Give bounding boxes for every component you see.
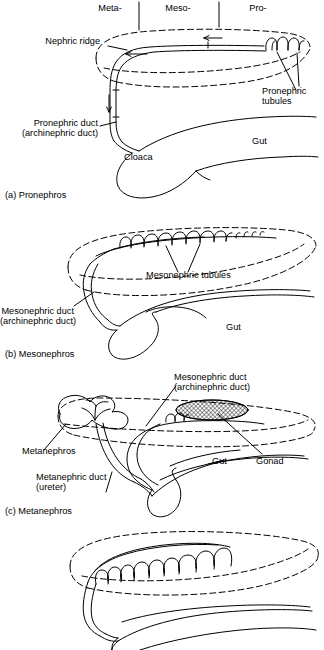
gut-lower-wall: [196, 156, 318, 171]
caption-panel-c: (c) Metanephros: [5, 506, 72, 516]
label-gut-b: Gut: [226, 322, 256, 333]
nephric-ridge-outline-bottom: [117, 49, 310, 87]
label-metanephric-duct-line2: (ureter): [36, 482, 136, 493]
gonad-ellipse-crosshatch: [176, 400, 248, 420]
pronephric-duct-line-1: [110, 45, 264, 141]
gut-upper-wall-d: [118, 610, 312, 641]
meso-duct-c-leader: [146, 386, 176, 426]
label-pronephric-tubules-line2: tubules: [262, 96, 322, 107]
label-cloaca: Cloaca: [124, 152, 174, 163]
panel-d-drawing: [0, 522, 324, 650]
label-meso-duct-c-line1: Mesonephric duct: [174, 372, 314, 383]
label-gonad: Gonad: [256, 456, 300, 467]
cloaca-junction-b: [152, 312, 156, 320]
label-metanephric-duct-line1: Metanephric duct: [36, 472, 136, 483]
nephric-ridge-inner-dash: [104, 52, 300, 73]
ridge-outline-top-b: [68, 228, 316, 267]
label-pronephric-duct-line1: Pronephric duct: [2, 118, 98, 129]
label-gut-a: Gut: [252, 136, 282, 147]
label-pronephric-tubules-line1: Pronephric: [262, 86, 322, 97]
meso-duct-c-line-1: [152, 421, 264, 428]
duct-descend-d-2: [91, 584, 106, 634]
caption-panel-b: (b) Mesonephros: [5, 349, 74, 359]
mesonephric-tubules-coils: [120, 231, 264, 248]
gut-lower-wall-b: [156, 295, 314, 312]
label-pronephric-duct-line2: (archinephric duct): [2, 128, 98, 139]
gut-upper-wall: [139, 116, 316, 151]
label-meso-duct-c-line2: (archinephric duct): [174, 382, 314, 393]
caption-panel-a: (a) Pronephros: [5, 190, 66, 200]
ridge-outline-bottom-c: [74, 430, 314, 447]
ridge-outline-bottom-d: [88, 556, 318, 595]
label-mesonephric-tubules: Mesonephric tubules: [146, 270, 276, 281]
label-metanephros: Metanephros: [22, 446, 108, 457]
meso-duct-terminal-1: [100, 322, 117, 330]
meso-duct-terminal-2: [108, 320, 120, 326]
cloaca-outline-d: [110, 641, 140, 650]
flow-arrow-down: [107, 95, 112, 112]
tubule-leader-2: [297, 53, 299, 86]
tubule-loops-d: [95, 548, 231, 584]
cloaca-gut-junction: [196, 171, 210, 180]
duct-terminal-d-2: [106, 634, 118, 638]
ureter-line-2: [103, 423, 141, 479]
nephric-ridge-leader: [108, 46, 127, 50]
label-mesonephric-duct-line2: (archinephric duct): [0, 316, 74, 327]
meso-tubule-leader-1: [166, 246, 178, 272]
meso-tubule-leader-2: [188, 244, 200, 272]
ridge-outline-left-c: [58, 416, 74, 435]
pronephric-duct-leader: [100, 122, 116, 126]
gonad-leader: [218, 414, 262, 454]
pronephric-tubules-coils: [266, 37, 304, 50]
label-nephric-ridge: Nephric ridge: [10, 36, 100, 47]
panel-b-drawing: [0, 212, 324, 372]
label-mesonephric-duct-line1: Mesonephric duct: [0, 306, 74, 317]
meso-duct-line-upper-edge: [90, 237, 204, 264]
label-gut-c: Gut: [212, 456, 242, 467]
flow-arrow-right: [204, 36, 222, 41]
ridge-inner-dash-d: [82, 549, 308, 581]
meso-duct-c-line-3: [137, 424, 160, 485]
gut-lower-wall-d: [140, 628, 316, 650]
